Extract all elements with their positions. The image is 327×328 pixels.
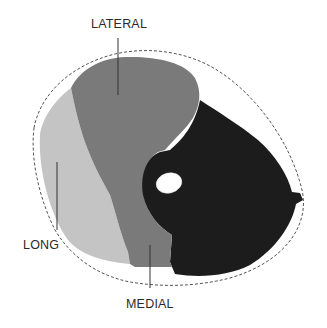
- long-label: LONG: [23, 238, 59, 252]
- medial-label: MEDIAL: [126, 297, 174, 311]
- lateral-label: LATERAL: [91, 17, 147, 31]
- arm-cross-section-diagram: [0, 0, 327, 328]
